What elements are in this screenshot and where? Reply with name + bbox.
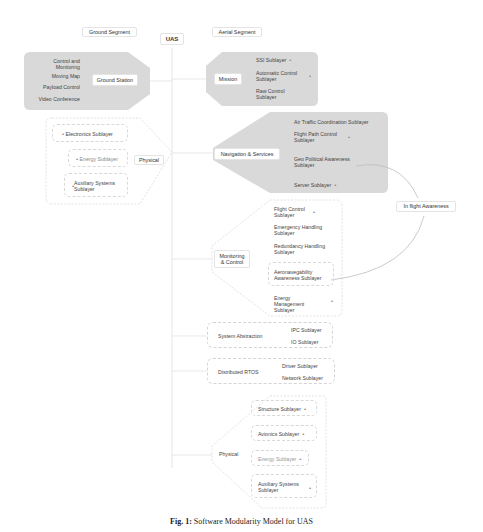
mon-item-redundancy: Redundancy Handling Sublayer [274, 243, 332, 255]
mission-dot: • [306, 73, 311, 79]
ground-sublayer-energy: • Energy Sublayer [68, 149, 128, 167]
mon-sublayer-aeronavegability: Aeronavegability Awareness Sublayer [268, 262, 334, 286]
aerial-sublayer-energy: Energy Sublayer• [251, 450, 309, 466]
aerial-sublayer-auxiliary: Auxiliary Systems Sublayer • [251, 474, 317, 498]
mon-item-emergency: Emergency Handling Sublayer [274, 224, 330, 236]
figure-caption: Fig. 1: Software Modularity Model for UA… [0, 517, 483, 526]
nav-dot: • [345, 134, 350, 140]
ground-item-payload-control: Payload Control [30, 84, 80, 90]
ground-segment-label: Ground Segment [82, 27, 137, 37]
aerial-energy-label: Energy Sublayer [258, 456, 296, 462]
abs-item-io: IO Sublayer [291, 339, 318, 345]
distributed-rtos-node: Distributed RTOS [218, 369, 258, 375]
mon-dot-2: • [328, 298, 333, 304]
mission-item-raw-control: Raw Control Sublayer [256, 88, 296, 100]
navigation-node: Navigation & Services [214, 148, 280, 160]
ground-item-control-monitoring: Control and Monitoring [48, 58, 80, 70]
nav-item-air-traffic: Air Traffic Coordination Sublayer [294, 119, 386, 125]
ground-sublayer-auxiliary: • Auxiliary Systems Sublayer [64, 173, 128, 197]
mission-node: Mission [214, 73, 242, 85]
rtos-item-network: Network Sublayer [282, 375, 323, 381]
system-abstraction-node: System Abstraction [218, 333, 262, 339]
ground-auxiliary-label: Auxiliary Systems Sublayer [74, 180, 115, 192]
ground-item-moving-map: Moving Map [40, 73, 80, 79]
mission-item-ssi: SSI Sublayer• [256, 57, 291, 63]
ground-station-node: Ground Station [92, 74, 138, 86]
mission-item-automatic-control: Automatic Control Sublayer [256, 70, 306, 82]
rtos-item-driver: Driver Sublayer [282, 363, 318, 369]
aerial-avionics-label: Avionics Sublayer [258, 431, 299, 437]
ground-physical-node: Physical [134, 155, 164, 165]
mon-item-flight-control: Flight Control Sublayer [274, 206, 306, 218]
aerial-sublayer-avionics: Avionics Sublayer• [251, 425, 317, 441]
aerial-sublayer-structure: Structure Sublayer• [251, 400, 317, 416]
aerial-segment-label: Aerial Segment [212, 27, 262, 37]
in-flight-awareness-node: In flight Awareness [396, 201, 456, 212]
aerial-physical-node: Physical [219, 451, 238, 457]
mon-dot: • [310, 209, 315, 215]
uas-root-node: UAS [160, 33, 184, 45]
aerial-auxiliary-label: Auxiliary Systems Sublayer [258, 481, 304, 493]
ground-energy-label: Energy Sublayer [80, 156, 118, 162]
nav-item-geo-political: Geo Political Awareness Sublayer [294, 156, 354, 168]
ground-sublayer-electronics: • Electronics Sublayer [52, 124, 128, 142]
monitoring-node: Monitoring & Control [214, 250, 250, 268]
ground-item-video-conference: Video Conference [26, 96, 80, 102]
nav-item-flight-path: Flight Path Control Sublayer [294, 131, 339, 143]
mon-item-energy-mgmt: Energy Management Sublayer [274, 295, 322, 313]
nav-item-server: Server Sublayer• [294, 182, 336, 188]
aerial-structure-label: Structure Sublayer [258, 406, 301, 412]
ground-electronics-label: Electronics Sublayer [66, 131, 113, 137]
mon-aeronavegability-label: Aeronavegability Awareness Sublayer [274, 269, 332, 281]
abs-item-ipc: IPC Sublayer [291, 327, 322, 333]
